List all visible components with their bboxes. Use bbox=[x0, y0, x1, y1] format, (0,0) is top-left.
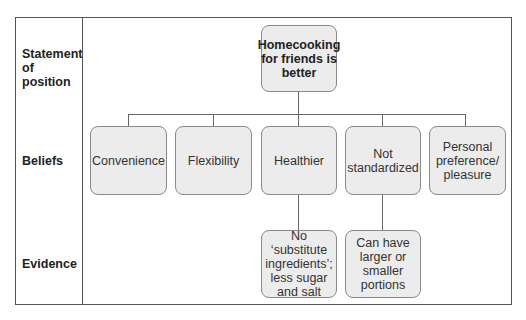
row-label-evidence: Evidence bbox=[22, 257, 77, 271]
evidence-not-standardized: Can have larger or smaller portions bbox=[345, 230, 421, 298]
belief-flexibility: Flexibility bbox=[175, 126, 252, 195]
belief-not-standardized: Not standardized bbox=[345, 126, 421, 195]
belief-convenience: Convenience bbox=[90, 126, 167, 195]
connector-horizontal bbox=[128, 114, 466, 115]
evidence-healthier: No ‘substitute ingredients’; less sugar … bbox=[261, 230, 337, 298]
belief-personal-preference: Personal preference/ pleasure bbox=[429, 126, 506, 195]
statement-box: Homecooking for friends is better bbox=[261, 25, 337, 92]
connector-healthier-evidence bbox=[298, 195, 299, 230]
connector-healthier bbox=[298, 114, 299, 126]
connector-personal bbox=[465, 114, 466, 126]
row-label-statement: Statement of position bbox=[22, 47, 80, 89]
label-column-divider bbox=[82, 17, 83, 305]
row-label-beliefs: Beliefs bbox=[22, 154, 63, 168]
connector-not-standardized bbox=[382, 114, 383, 126]
connector-flexibility bbox=[213, 114, 214, 126]
connector-root-down bbox=[298, 92, 299, 114]
connector-convenience bbox=[128, 114, 129, 126]
connector-notstd-evidence bbox=[382, 195, 383, 230]
belief-healthier: Healthier bbox=[261, 126, 337, 195]
